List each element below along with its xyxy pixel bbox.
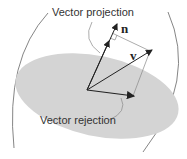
diagram-graphic bbox=[0, 0, 187, 159]
projection-leader bbox=[88, 22, 100, 53]
v-label: v bbox=[130, 48, 137, 64]
vector-diagram: Vector projection Vector rejection n v bbox=[0, 0, 187, 159]
projection-label: Vector projection bbox=[52, 6, 134, 18]
plane-ellipse bbox=[7, 40, 186, 153]
n-label: n bbox=[121, 21, 128, 37]
rejection-label: Vector rejection bbox=[40, 114, 116, 126]
